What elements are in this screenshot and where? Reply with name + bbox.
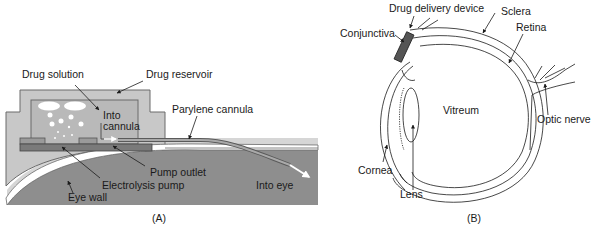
label-drug-delivery-device: Drug delivery device: [389, 2, 484, 14]
label-parylene-cannula: Parylene cannula: [172, 103, 253, 115]
label-drug-solution: Drug solution: [22, 68, 84, 80]
label-eye-wall: Eye wall: [68, 191, 107, 203]
caption-panel-b: (B): [467, 212, 481, 224]
label-conjunctiva: Conjunctiva: [340, 27, 395, 39]
label-sclera: Sclera: [501, 5, 531, 17]
label-electrolysis-pump: Electrolysis pump: [102, 179, 184, 191]
label-drug-reservoir: Drug reservoir: [146, 68, 213, 80]
panel-b-annotations: Drug delivery device Sclera Conjunctiva …: [340, 2, 591, 224]
label-retina: Retina: [516, 21, 547, 33]
label-lens: Lens: [400, 188, 423, 200]
label-optic-nerve: Optic nerve: [537, 113, 591, 125]
panel-a-device-diagram: Drug solution Drug reservoir Into cannul…: [6, 68, 318, 224]
label-pump-outlet: Pump outlet: [150, 166, 206, 178]
label-into-cannula-line2: cannula: [103, 120, 140, 132]
label-vitreum: Vitreum: [443, 104, 479, 116]
caption-panel-a: (A): [152, 212, 166, 224]
label-cornea: Cornea: [358, 164, 393, 176]
electrolysis-pump-layer: [20, 144, 152, 151]
figure: Drug solution Drug reservoir Into cannul…: [0, 0, 597, 237]
label-into-eye: Into eye: [256, 179, 294, 191]
